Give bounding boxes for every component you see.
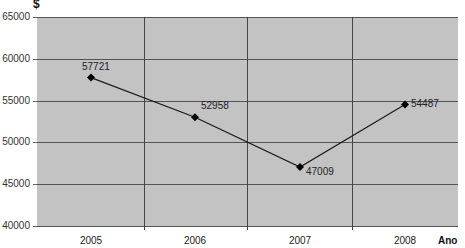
x-tick-2008: 2008 <box>375 235 435 246</box>
data-label-2005: 57721 <box>82 61 110 72</box>
plot-area <box>0 0 465 248</box>
x-tick-2007: 2007 <box>270 235 330 246</box>
axis-ticks <box>33 18 37 227</box>
x-tick-2005: 2005 <box>61 235 121 246</box>
data-label-2006: 52958 <box>201 100 229 111</box>
data-label-2007: 47009 <box>306 166 334 177</box>
x-tick-2006: 2006 <box>165 235 225 246</box>
x-axis-title: Ano <box>438 235 457 246</box>
data-label-2008: 54487 <box>411 98 439 109</box>
